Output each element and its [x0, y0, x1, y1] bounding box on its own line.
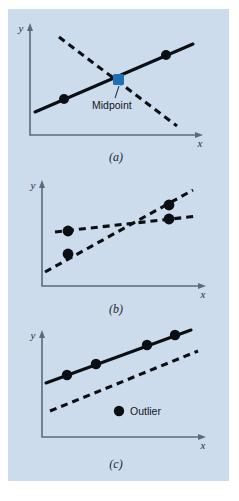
panel-a-data-point [59, 94, 69, 104]
panel-c-axis-lines [42, 336, 200, 437]
panel-b-axes: y x [30, 179, 206, 300]
panel-c-axes: y x [30, 329, 206, 451]
panel-a-x-axis-label: x [197, 137, 203, 149]
panel-b-caption: (b) [109, 302, 123, 316]
figure-canvas: y x Midpoint (a) [0, 0, 239, 501]
midpoint-marker [113, 74, 124, 85]
panel-b-data-point [164, 200, 175, 211]
panel-c-dashed-line [50, 351, 198, 411]
midpoint-leader-line [115, 86, 119, 98]
panel-a: y x Midpoint (a) [18, 22, 203, 164]
outlier-marker [114, 406, 124, 416]
panel-b-y-axis-arrow [39, 180, 45, 188]
panel-c-data-point [142, 340, 152, 350]
panel-b-data-point [63, 226, 74, 237]
panel-c-y-axis-label: y [30, 329, 36, 341]
midpoint-label: Midpoint [92, 99, 132, 111]
panel-a-caption: (a) [109, 150, 123, 164]
panel-a-y-axis-arrow [27, 23, 33, 31]
panel-b-data-point [164, 214, 175, 225]
panel-c-caption: (c) [109, 457, 122, 471]
panel-c-data-point [62, 370, 72, 380]
panel-c-data-point [91, 359, 101, 369]
panel-b-y-axis-label: y [30, 179, 36, 191]
panel-b: y x (b) [30, 179, 206, 316]
panel-b-shallow-dashed-line [55, 216, 198, 232]
panel-a-data-point [161, 50, 171, 60]
panel-c-data-point [170, 330, 180, 340]
panel-c: y x Outlier (c) [30, 329, 206, 471]
figure-root: y x Midpoint (a) [0, 0, 239, 501]
panel-c-x-axis-label: x [200, 439, 206, 451]
panel-a-y-axis-label: y [18, 22, 24, 34]
outlier-label: Outlier [130, 405, 161, 417]
panel-b-data-point [63, 249, 74, 260]
panel-b-x-axis-label: x [200, 288, 206, 300]
panel-c-y-axis-arrow [39, 330, 45, 338]
panel-a-axes: y x [18, 22, 203, 149]
